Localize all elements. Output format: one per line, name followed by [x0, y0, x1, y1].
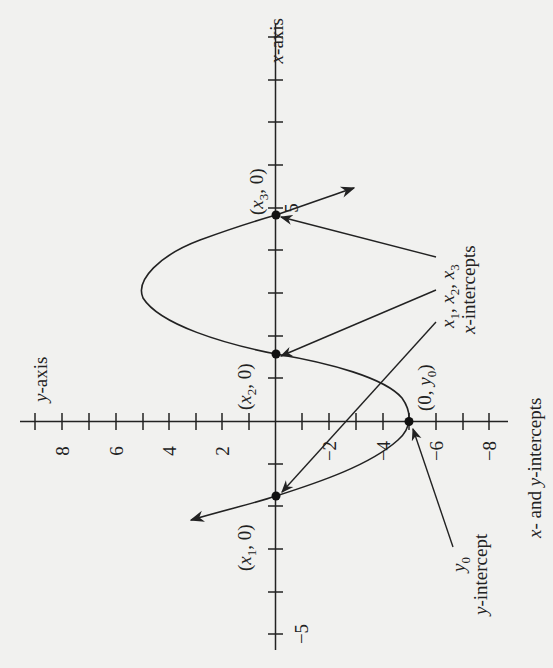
intercepts-chart: x-axis y-axis 8 6 4 2 −2 −4 −6 −8 5 −5 (…	[0, 0, 553, 668]
label-x3: (x3, 0)	[246, 168, 271, 215]
x-tick-label-5: 5	[281, 203, 302, 213]
svg-text:−4: −4	[373, 440, 394, 461]
x-intercepts-label: x-intercepts	[458, 245, 479, 335]
svg-text:−2: −2	[319, 441, 340, 461]
point-x3	[272, 211, 281, 220]
point-y0	[405, 417, 414, 426]
label-y0: (0, y0)	[414, 364, 439, 411]
point-x1	[272, 492, 281, 501]
x-axis	[268, 24, 283, 650]
y-axis	[20, 413, 508, 430]
figure-page: x-axis y-axis 8 6 4 2 −2 −4 −6 −8 5 −5 (…	[0, 0, 553, 668]
y-axis-label: y-axis	[30, 357, 51, 404]
svg-text:6: 6	[106, 446, 127, 456]
x-axis-label: x-axis	[266, 18, 287, 64]
svg-text:−8: −8	[479, 441, 500, 461]
svg-text:−6: −6	[426, 441, 447, 461]
x-tick-label-neg5: −5	[291, 624, 312, 644]
label-x2: (x2, 0)	[234, 363, 259, 410]
svg-text:4: 4	[159, 446, 180, 456]
figure-caption: x- and y-intercepts	[524, 398, 545, 539]
point-x2	[272, 350, 281, 359]
svg-text:8: 8	[52, 446, 73, 456]
svg-text:2: 2	[212, 446, 233, 456]
label-x1: (x1, 0)	[234, 524, 259, 571]
y-intercept-label: y-intercept	[470, 533, 491, 617]
